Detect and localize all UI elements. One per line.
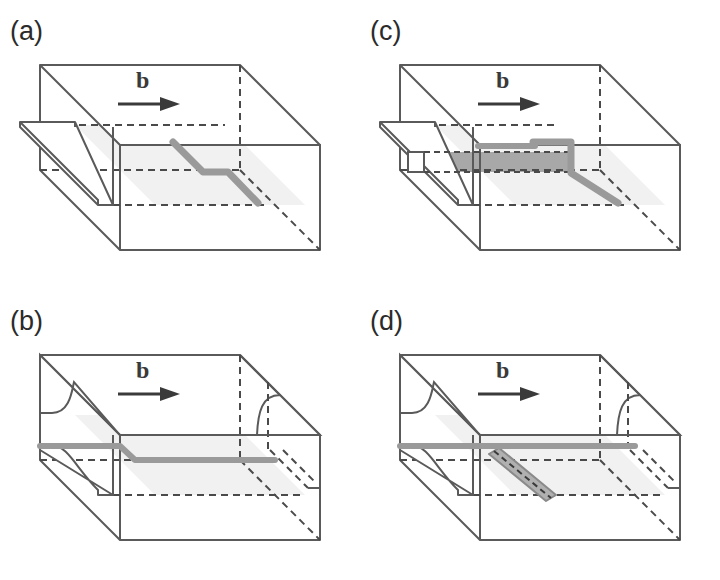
block-top-face-c [400, 65, 680, 145]
panel-b: (b) [0, 290, 360, 580]
panel-label-c: (c) [370, 16, 401, 46]
right-step-face-d [668, 435, 680, 488]
panel-a: (a) [0, 0, 360, 290]
burgers-label-d: b [496, 357, 509, 383]
panel-d: (d) [360, 290, 720, 580]
burgers-label-b: b [136, 357, 149, 383]
burgers-label-c: b [496, 67, 509, 93]
right-step-face-b [308, 435, 320, 488]
figure-root: (a) [0, 0, 720, 580]
panel-label-d: (d) [370, 306, 403, 336]
panel-label-b: (b) [10, 306, 43, 336]
panel-label-a: (a) [10, 16, 43, 46]
band-notch-c [408, 152, 424, 172]
panel-a-label-group: (a) [10, 16, 43, 46]
panel-c: (c) [360, 0, 720, 290]
block-top-face-a [40, 65, 320, 145]
burgers-label-a: b [136, 67, 149, 93]
